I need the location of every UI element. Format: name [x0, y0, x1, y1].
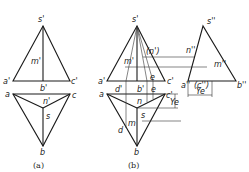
label-b-s: s	[141, 111, 145, 120]
label-b-n-prime: (n')	[146, 47, 160, 56]
label-c: c	[72, 91, 77, 100]
label-s-prime: s'	[38, 15, 44, 24]
caption-b: (b)	[128, 161, 139, 170]
label-b-m: m	[128, 119, 136, 128]
label-m-double: m''	[214, 60, 226, 69]
figure-a-top-view	[13, 94, 70, 146]
label-b-a-prime: a'	[98, 77, 105, 86]
label-b: b	[40, 148, 45, 157]
label-m-prime: m'	[31, 57, 41, 66]
label-b-c-prime: c'	[167, 77, 174, 86]
label-b-double: b''	[237, 81, 246, 90]
label-b-m-prime: m'	[124, 57, 134, 66]
label-b-b-prime: b'	[137, 85, 144, 94]
label-b-a: a	[99, 90, 104, 99]
label-n-prime: n'	[43, 97, 50, 106]
figure-a-front-view	[13, 26, 70, 81]
label-a-prime: a'	[3, 77, 10, 86]
caption-a: (a)	[33, 161, 44, 170]
label-c-prime: c'	[71, 77, 78, 86]
label-b-d: d	[118, 126, 124, 135]
label-b-e-front: e	[150, 73, 155, 82]
label-ye-side: Ye	[196, 87, 205, 96]
label-b-b: b	[134, 148, 139, 157]
label-ye-top: Ye	[170, 98, 179, 107]
label-n-double: n''	[186, 46, 195, 55]
label-a: a	[5, 90, 10, 99]
label-b-n: n	[137, 97, 142, 106]
label-s: s	[46, 112, 50, 121]
label-b-d-prime: d'	[115, 85, 122, 94]
label-b-s-prime: s'	[132, 15, 138, 24]
projection-diagram: s' m' a' b' c' a c n' s b (a) s' (n')	[0, 0, 249, 172]
label-b-prime: b'	[40, 84, 47, 93]
label-s-double: s''	[207, 17, 216, 26]
label-b-e: e	[151, 85, 156, 94]
label-a-double: a''	[181, 81, 190, 90]
